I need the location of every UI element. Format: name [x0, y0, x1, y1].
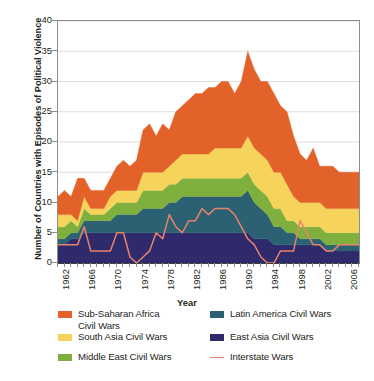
legend-line-icon [210, 357, 224, 358]
x-tick-mark [57, 263, 58, 267]
x-tick-label: 2002 [323, 269, 332, 290]
x-tick-label: 1974 [140, 269, 149, 290]
x-tick-mark [325, 263, 326, 267]
chart-figure: Number of Countries with Episodes of Pol… [0, 0, 374, 381]
x-tick-mark [194, 263, 195, 267]
legend-item-label: Sub-Saharan Africa Civil Wars [78, 308, 170, 331]
y-tick-label: 5 [30, 227, 52, 236]
x-tick-label: 1962 [61, 269, 70, 290]
plot-area [57, 20, 360, 264]
x-tick-mark [162, 263, 163, 267]
x-tick-mark [103, 263, 104, 267]
x-tick-mark [306, 263, 307, 267]
x-tick-mark [293, 263, 294, 267]
x-tick-mark [221, 263, 222, 267]
legend-item-label: Latin America Civil Wars [230, 308, 331, 320]
x-tick-label: 1998 [297, 269, 306, 290]
x-tick-mark [96, 263, 97, 267]
x-tick-mark [351, 263, 352, 267]
legend-item-label: East Asia Civil Wars [230, 331, 313, 343]
legend-item[interactable]: East Asia Civil Wars [210, 331, 370, 343]
x-tick-label: 1986 [218, 269, 227, 290]
x-tick-mark [142, 263, 143, 267]
x-tick-mark [299, 263, 300, 267]
x-tick-mark [109, 263, 110, 267]
x-tick-mark [247, 263, 248, 267]
y-tick-label: 25 [30, 106, 52, 115]
legend-item[interactable]: Middle East Civil Wars [58, 351, 198, 363]
y-tick-label: 35 [30, 46, 52, 55]
y-tick-label: 20 [30, 136, 52, 145]
legend-item[interactable]: South Asia Civil Wars [58, 331, 198, 343]
x-tick-mark [338, 263, 339, 267]
x-tick-mark [64, 263, 65, 267]
legend-item[interactable]: Latin America Civil Wars [210, 308, 370, 320]
y-tick-label: 40 [30, 15, 52, 24]
x-tick-mark [319, 263, 320, 267]
x-tick-label: 1966 [87, 269, 96, 290]
x-tick-mark [358, 263, 359, 267]
x-tick-label: 2006 [349, 269, 358, 290]
y-tick-label: 30 [30, 76, 52, 85]
x-tick-mark [201, 263, 202, 267]
legend-swatch-icon [210, 334, 224, 341]
legend-swatch-icon [58, 354, 72, 361]
x-tick-mark [266, 263, 267, 267]
x-tick-mark [70, 263, 71, 267]
x-tick-mark [188, 263, 189, 267]
x-tick-mark [279, 263, 280, 267]
x-tick-label: 1982 [192, 269, 201, 290]
x-tick-label: 1990 [244, 269, 253, 290]
x-tick-mark [208, 263, 209, 267]
x-tick-mark [168, 263, 169, 267]
x-tick-mark [253, 263, 254, 267]
x-tick-mark [181, 263, 182, 267]
legend-item-label: Middle East Civil Wars [78, 351, 171, 363]
x-tick-mark [155, 263, 156, 267]
x-tick-mark [332, 263, 333, 267]
chart-legend: Sub-Saharan Africa Civil WarsSouth Asia … [58, 308, 370, 370]
legend-item[interactable]: Sub-Saharan Africa Civil Wars [58, 308, 170, 331]
x-tick-mark [77, 263, 78, 267]
legend-item-label: South Asia Civil Wars [78, 331, 167, 343]
x-tick-mark [345, 263, 346, 267]
x-tick-mark [312, 263, 313, 267]
x-tick-mark [234, 263, 235, 267]
x-tick-label: 1970 [113, 269, 122, 290]
x-tick-mark [83, 263, 84, 267]
x-axis-title: Year [0, 297, 374, 308]
x-tick-mark [149, 263, 150, 267]
x-tick-mark [90, 263, 91, 267]
legend-swatch-icon [58, 311, 72, 318]
x-tick-mark [116, 263, 117, 267]
x-tick-mark [286, 263, 287, 267]
stacked-area-svg [58, 21, 359, 263]
legend-swatch-icon [58, 334, 72, 341]
y-tick-label: 0 [30, 257, 52, 266]
legend-item-label: Interstate Wars [230, 351, 293, 363]
y-tick-label: 10 [30, 197, 52, 206]
x-tick-mark [214, 263, 215, 267]
x-tick-mark [240, 263, 241, 267]
x-tick-mark [227, 263, 228, 267]
legend-swatch-icon [210, 311, 224, 318]
y-tick-label: 15 [30, 167, 52, 176]
x-tick-mark [260, 263, 261, 267]
x-tick-label: 1994 [270, 269, 279, 290]
x-tick-mark [136, 263, 137, 267]
x-tick-mark [175, 263, 176, 267]
x-tick-label: 1978 [166, 269, 175, 290]
legend-item[interactable]: Interstate Wars [210, 351, 370, 363]
x-tick-mark [129, 263, 130, 267]
x-tick-mark [122, 263, 123, 267]
figure-caption [8, 373, 370, 381]
x-tick-mark [273, 263, 274, 267]
